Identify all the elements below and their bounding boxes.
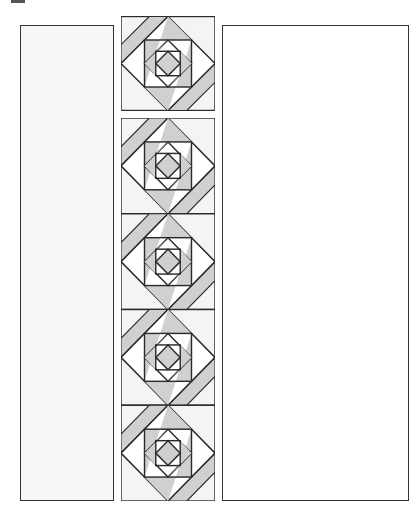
top-quilt-block [121, 16, 215, 111]
right-border-panel [222, 25, 409, 501]
strip-block-3 [121, 310, 215, 406]
corner-mark [11, 0, 25, 3]
quilt-strip [121, 118, 215, 501]
left-border-panel [20, 25, 114, 501]
strip-block-4 [121, 405, 215, 501]
strip-block-1 [121, 118, 215, 214]
strip-block-2 [121, 214, 215, 310]
